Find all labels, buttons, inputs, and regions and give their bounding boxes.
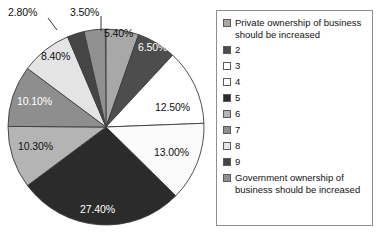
slice-data-label: 5.40%	[104, 27, 133, 39]
legend-item-label: 3	[235, 59, 240, 72]
legend-item-label: 7	[235, 123, 240, 136]
slice-data-label: 13.00%	[154, 146, 189, 158]
legend-item-list: Private ownership of business should be …	[223, 16, 368, 197]
legend-item-label: 6	[235, 107, 240, 120]
legend-item-label: Private ownership of business should be …	[235, 16, 368, 40]
legend-item[interactable]: 8	[223, 139, 368, 154]
legend-item[interactable]: 2	[223, 43, 368, 58]
slice-data-label: 6.50%	[138, 41, 167, 53]
legend-swatch-icon	[223, 46, 231, 54]
legend-swatch-icon	[223, 158, 231, 166]
legend-item[interactable]: 4	[223, 75, 368, 90]
legend-item[interactable]: Government ownership of business should …	[223, 171, 368, 197]
slice-data-label: 3.50%	[70, 6, 99, 18]
legend-item-label: 2	[235, 43, 240, 56]
legend-swatch-icon	[223, 62, 231, 70]
legend-item-label: 9	[235, 155, 240, 168]
slice-data-label: 12.50%	[155, 101, 190, 113]
legend-swatch-icon	[223, 78, 231, 86]
legend-item-label: 8	[235, 139, 240, 152]
chart-legend: Private ownership of business should be …	[216, 10, 373, 226]
legend-swatch-icon	[223, 19, 231, 27]
legend-swatch-icon	[223, 174, 231, 182]
leader-line-group	[48, 16, 101, 31]
legend-item-label: Government ownership of business should …	[235, 171, 368, 195]
legend-item[interactable]: 9	[223, 155, 368, 170]
slice-data-label: 27.40%	[80, 203, 115, 215]
slice-data-label: 10.10%	[17, 95, 52, 107]
legend-item[interactable]: 7	[223, 123, 368, 138]
pie-slice-group	[8, 29, 204, 225]
legend-item[interactable]: 3	[223, 59, 368, 74]
slice-data-label: 2.80%	[8, 6, 37, 18]
legend-swatch-icon	[223, 126, 231, 134]
pie-chart-figure: 5.40%6.50%12.50%13.00%27.40%10.30%10.10%…	[0, 0, 379, 233]
slice-data-label: 8.40%	[41, 50, 70, 62]
leader-line-slice-9	[48, 18, 57, 30]
pie-plot-area: 5.40%6.50%12.50%13.00%27.40%10.30%10.10%…	[0, 0, 214, 233]
legend-item-label: 5	[235, 91, 240, 104]
legend-item[interactable]: 5	[223, 91, 368, 106]
legend-item[interactable]: 6	[223, 107, 368, 122]
legend-item-label: 4	[235, 75, 240, 88]
legend-item[interactable]: Private ownership of business should be …	[223, 16, 368, 42]
legend-swatch-icon	[223, 110, 231, 118]
legend-swatch-icon	[223, 94, 231, 102]
slice-data-label: 10.30%	[18, 140, 53, 152]
legend-swatch-icon	[223, 142, 231, 150]
